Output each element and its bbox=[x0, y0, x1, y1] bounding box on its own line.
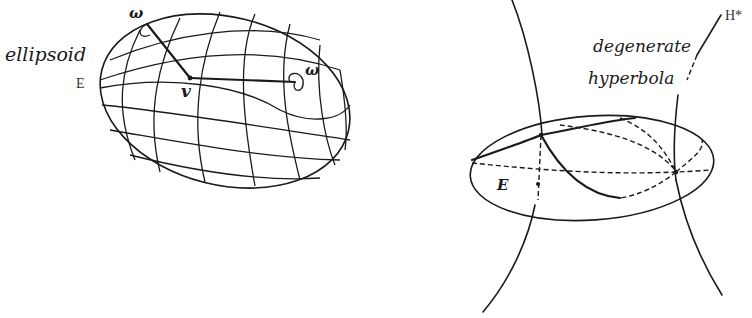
diagram-canvas: ellipsoid E ω ω v H* degenerate hyper bbox=[0, 0, 752, 318]
grid-line bbox=[243, 14, 255, 186]
dashed-curve bbox=[620, 172, 676, 198]
label-hyperbola: hyperbola bbox=[588, 68, 674, 88]
label-v: v bbox=[181, 81, 192, 101]
hyperbola-left-upper bbox=[512, 0, 542, 135]
grid-line bbox=[100, 82, 350, 119]
label-E-left: E bbox=[76, 76, 85, 91]
hyperbola-right-upper bbox=[674, 95, 678, 180]
label-omega-right: ω bbox=[305, 61, 319, 79]
dashed-curve bbox=[560, 125, 675, 170]
intersection-point bbox=[536, 182, 540, 186]
geodesic-to-omega-right bbox=[190, 78, 295, 82]
solid-geodesic bbox=[541, 135, 620, 198]
grid-line bbox=[198, 12, 220, 182]
label-E-right: E bbox=[496, 176, 509, 194]
dashed-curve bbox=[538, 135, 541, 200]
grid-line bbox=[100, 55, 340, 80]
hstar-line-dashed bbox=[687, 55, 697, 80]
ellipsoid-figure: ellipsoid E ω ω v bbox=[5, 0, 369, 213]
point-v bbox=[188, 76, 193, 81]
intersection-point bbox=[674, 170, 678, 174]
dashed-curve bbox=[620, 118, 676, 172]
hyperbola-left-lower bbox=[483, 205, 535, 312]
grid-line bbox=[319, 45, 335, 165]
label-H-star: H* bbox=[725, 8, 742, 23]
dashed-curve bbox=[676, 140, 702, 172]
geodesic-to-omega-top bbox=[147, 24, 190, 78]
hyperbola-figure: H* degenerate hyperbola E bbox=[467, 0, 742, 312]
label-degenerate: degenerate bbox=[593, 36, 691, 56]
label-ellipsoid: ellipsoid bbox=[5, 43, 86, 65]
label-omega-top: ω bbox=[129, 4, 143, 22]
intersection-point bbox=[539, 133, 543, 137]
hstar-line bbox=[697, 15, 721, 55]
